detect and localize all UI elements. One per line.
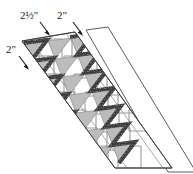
dimension-square-size: 2" bbox=[57, 9, 83, 36]
label-seam-allowance-value: 2" bbox=[6, 43, 16, 55]
shaded-triangle bbox=[53, 113, 76, 134]
label-strip-width-value: 2½" bbox=[20, 9, 38, 21]
figure-canvas: 2½" 2" 2" bbox=[0, 0, 193, 174]
label-seam-allowance-arrowhead bbox=[24, 64, 29, 70]
dimension-seam-allowance: 2" bbox=[6, 43, 29, 70]
shaded-triangle bbox=[67, 149, 90, 170]
label-square-size-text: 2" bbox=[57, 9, 67, 21]
label-strip-width-arrowhead bbox=[45, 30, 50, 36]
strip-piecing-figure: 2½" 2" 2" bbox=[0, 0, 193, 174]
label-square-size-arrowhead bbox=[78, 30, 83, 36]
label-strip-width-text: 2½" bbox=[20, 9, 38, 21]
label-seam-allowance-text: 2" bbox=[6, 43, 16, 55]
dimension-strip-width: 2½" bbox=[20, 9, 50, 36]
label-square-size-value: 2" bbox=[57, 9, 67, 21]
shaded-triangle bbox=[60, 131, 83, 152]
